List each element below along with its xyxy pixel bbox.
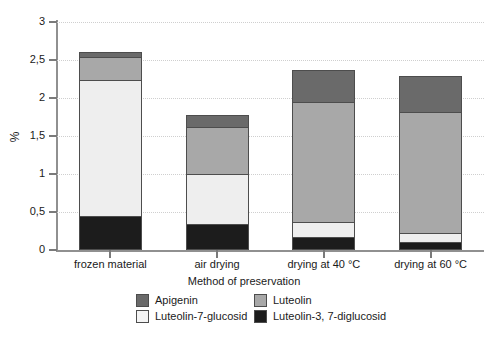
y-tick-label: 1,5: [30, 130, 45, 141]
x-tick-mark: [109, 250, 111, 258]
x-axis-title: Method of preservation: [0, 275, 488, 287]
bar-segment: [292, 237, 355, 250]
x-category-label: frozen material: [57, 258, 164, 270]
bar-segment: [292, 222, 355, 238]
chart-figure: % Method of preservation ApigeninLuteoli…: [0, 0, 488, 337]
chart-legend: ApigeninLuteolinLuteolin-7-glucosidLuteo…: [136, 292, 436, 324]
bar-stack: [79, 52, 142, 250]
y-tick-label-wrap: 0,5: [0, 206, 45, 217]
y-tick-label: 1: [39, 168, 45, 179]
y-tick-mark: [49, 97, 57, 99]
bar-stack: [186, 115, 249, 250]
legend-swatch: [254, 310, 267, 323]
x-category-label: drying at 40 °C: [271, 258, 378, 270]
y-tick-label: 0,5: [30, 206, 45, 217]
legend-label: Luteolin-7-glucosid: [155, 310, 247, 322]
plot-area: [57, 22, 484, 250]
legend-label: Luteolin: [273, 294, 312, 306]
bar-segment: [399, 76, 462, 113]
bar-segment: [399, 112, 462, 234]
y-tick-label: 2,5: [30, 54, 45, 65]
x-category-label: drying at 60 °C: [377, 258, 484, 270]
bar-segment: [292, 70, 355, 103]
legend-item: Luteolin: [254, 294, 436, 307]
x-tick-mark: [216, 250, 218, 258]
legend-swatch: [136, 310, 149, 323]
bar-segment: [79, 57, 142, 81]
y-tick-mark: [49, 59, 57, 61]
legend-item: Luteolin-3, 7-diglucosid: [254, 310, 436, 323]
legend-swatch: [136, 294, 149, 307]
y-tick-label: 0: [39, 244, 45, 255]
y-tick-label-wrap: 1,5: [0, 130, 45, 141]
y-tick-label-wrap: 3: [0, 16, 45, 27]
bar-segment: [186, 224, 249, 250]
bar-segment: [292, 102, 355, 223]
y-tick-label-wrap: 2,5: [0, 54, 45, 65]
bar-stack: [292, 70, 355, 250]
y-tick-label: 2: [39, 92, 45, 103]
x-category-label: air drying: [164, 258, 271, 270]
y-tick-label: 3: [39, 16, 45, 27]
bar-segment: [399, 242, 462, 250]
y-tick-label-wrap: 1: [0, 168, 45, 179]
y-tick-label-wrap: 0: [0, 244, 45, 255]
legend-swatch: [254, 294, 267, 307]
y-tick-label-wrap: 2: [0, 92, 45, 103]
x-axis-line: [56, 250, 484, 252]
bar-segment: [186, 174, 249, 225]
y-tick-mark: [49, 21, 57, 23]
x-tick-mark: [430, 250, 432, 258]
bar-segment: [79, 216, 142, 250]
y-tick-mark: [49, 249, 57, 251]
y-tick-mark: [49, 211, 57, 213]
legend-item: Luteolin-7-glucosid: [136, 310, 254, 323]
y-tick-mark: [49, 173, 57, 175]
x-tick-mark: [323, 250, 325, 258]
y-tick-mark: [49, 135, 57, 137]
gridline: [57, 22, 484, 23]
bar-segment: [79, 80, 142, 217]
legend-label: Apigenin: [155, 294, 198, 306]
bar-stack: [399, 76, 462, 250]
bar-segment: [186, 127, 249, 176]
legend-label: Luteolin-3, 7-diglucosid: [273, 310, 386, 322]
legend-item: Apigenin: [136, 294, 254, 307]
